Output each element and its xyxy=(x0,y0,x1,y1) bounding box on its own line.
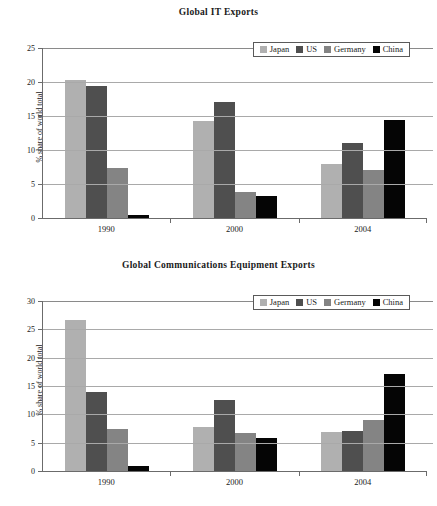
x-axis-it-exports: 199020002004 xyxy=(42,219,427,234)
bar-japan-2000 xyxy=(193,121,214,218)
bar-us-2004 xyxy=(342,431,363,471)
bar-us-2000 xyxy=(214,102,235,218)
x-axis-tick xyxy=(426,219,427,223)
y-axis-tick-label: 5 xyxy=(31,438,35,447)
y-axis-tick-label: 15 xyxy=(27,382,35,391)
bar-china-2000 xyxy=(256,196,277,218)
legend-item-germany[interactable]: Germany xyxy=(324,298,366,307)
bar-japan-2004 xyxy=(321,432,342,471)
bar-germany-2000 xyxy=(235,192,256,218)
y-axis-tick-label: 25 xyxy=(27,44,35,53)
legend-it-exports: JapanUSGermanyChina xyxy=(253,42,410,57)
legend-item-japan[interactable]: Japan xyxy=(260,298,289,307)
bar-china-1990 xyxy=(128,466,149,471)
y-axis-tick-label: 25 xyxy=(27,325,35,334)
bar-japan-2004 xyxy=(321,164,342,218)
legend-item-china[interactable]: China xyxy=(373,298,403,307)
legend-swatch-us xyxy=(296,46,303,53)
legend-swatch-germany xyxy=(324,46,331,53)
y-axis-tick xyxy=(38,414,43,415)
bar-germany-2004 xyxy=(363,420,384,471)
bar-germany-2004 xyxy=(363,170,384,218)
x-axis-tick-label-2000: 2000 xyxy=(170,472,298,487)
bar-us-1990 xyxy=(86,86,107,218)
legend-item-japan[interactable]: Japan xyxy=(260,45,289,54)
x-axis-tick-label-2000: 2000 xyxy=(170,219,298,234)
gridline xyxy=(43,184,433,185)
bar-germany-1990 xyxy=(107,168,128,218)
y-axis-tick xyxy=(38,301,43,302)
y-axis-tick-label: 5 xyxy=(31,180,35,189)
y-axis-tick xyxy=(38,48,43,49)
x-axis-comms-exports: 199020002004 xyxy=(42,472,427,487)
legend-label-germany: Germany xyxy=(334,45,366,54)
page-title-it-exports: Global IT Exports xyxy=(0,0,437,20)
legend-label-china: China xyxy=(383,45,403,54)
legend-swatch-us xyxy=(296,299,303,306)
y-axis-tick xyxy=(38,116,43,117)
x-axis-tick xyxy=(299,472,300,476)
legend-item-china[interactable]: China xyxy=(373,45,403,54)
y-axis-tick xyxy=(38,184,43,185)
x-axis-tick xyxy=(170,472,171,476)
bar-japan-1990 xyxy=(65,320,86,471)
gridline xyxy=(43,82,433,83)
gridline xyxy=(43,414,433,415)
page-title-comms-exports: Global Communications Equipment Exports xyxy=(0,253,437,273)
bar-group-2004 xyxy=(299,48,427,218)
legend-item-us[interactable]: US xyxy=(296,298,317,307)
gridline xyxy=(43,150,433,151)
legend-swatch-germany xyxy=(324,299,331,306)
x-axis-tick xyxy=(299,219,300,223)
y-axis-tick-label: 0 xyxy=(31,214,35,223)
legend-label-japan: Japan xyxy=(270,45,289,54)
y-axis-tick-label: 20 xyxy=(27,353,35,362)
legend-label-china: China xyxy=(383,298,403,307)
legend-item-us[interactable]: US xyxy=(296,45,317,54)
y-axis-tick xyxy=(38,329,43,330)
bar-us-2004 xyxy=(342,143,363,218)
bar-japan-1990 xyxy=(65,80,86,218)
x-axis-tick-label-2004: 2004 xyxy=(299,219,427,234)
gridline xyxy=(43,329,433,330)
gridline xyxy=(43,386,433,387)
legend-comms-exports: JapanUSGermanyChina xyxy=(253,295,410,310)
legend-swatch-japan xyxy=(260,46,267,53)
y-axis-tick-label: 0 xyxy=(31,467,35,476)
y-axis-tick xyxy=(38,443,43,444)
y-axis-tick xyxy=(38,358,43,359)
bar-germany-1990 xyxy=(107,429,128,472)
bar-germany-2000 xyxy=(235,433,256,471)
legend-swatch-japan xyxy=(260,299,267,306)
y-axis-tick-label: 15 xyxy=(27,112,35,121)
y-axis-tick xyxy=(38,386,43,387)
y-axis-tick-label: 10 xyxy=(27,410,35,419)
bar-group-1990 xyxy=(43,48,171,218)
plot-area-it-exports: 0510152025 xyxy=(42,48,427,219)
chart-figure-it-exports: Global IT Exports % share of world total… xyxy=(0,0,437,253)
gridline xyxy=(43,116,433,117)
gridline xyxy=(43,358,433,359)
y-axis-tick-label: 20 xyxy=(27,78,35,87)
bar-china-1990 xyxy=(128,215,149,218)
y-axis-tick xyxy=(38,82,43,83)
bar-china-2004 xyxy=(384,120,405,218)
x-axis-tick xyxy=(426,472,427,476)
x-axis-tick-label-1990: 1990 xyxy=(42,219,170,234)
x-axis-tick-label-1990: 1990 xyxy=(42,472,170,487)
bar-group-2000 xyxy=(171,48,299,218)
plot-area-comms-exports: 051015202530 xyxy=(42,301,427,472)
legend-label-us: US xyxy=(306,45,317,54)
bar-china-2004 xyxy=(384,374,405,471)
bar-japan-2000 xyxy=(193,427,214,471)
legend-item-germany[interactable]: Germany xyxy=(324,45,366,54)
chart-figure-comms-exports: Global Communications Equipment Exports … xyxy=(0,253,437,506)
bar-series-container-it-exports xyxy=(43,48,427,218)
gridline xyxy=(43,443,433,444)
x-axis-tick-label-2004: 2004 xyxy=(299,472,427,487)
x-axis-tick xyxy=(170,219,171,223)
y-axis-tick xyxy=(38,150,43,151)
y-axis-tick-label: 10 xyxy=(27,146,35,155)
bar-us-2000 xyxy=(214,400,235,471)
legend-swatch-china xyxy=(373,46,380,53)
